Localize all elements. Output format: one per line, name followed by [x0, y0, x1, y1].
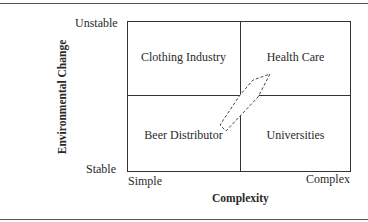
dashed-arrow-icon — [0, 0, 368, 222]
